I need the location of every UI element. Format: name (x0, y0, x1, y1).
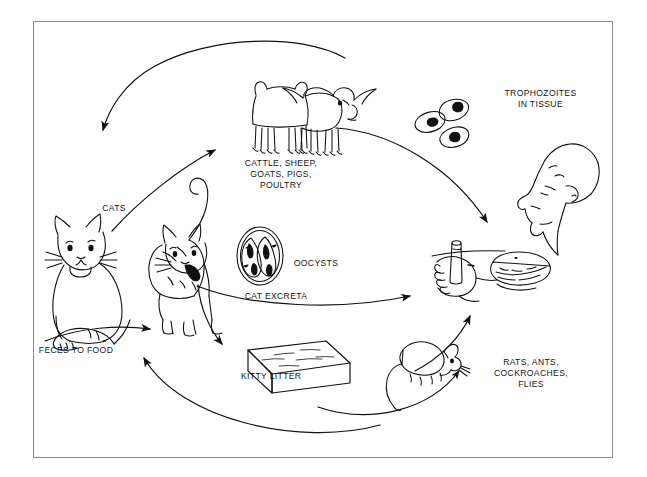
label-cat-excreta: CAT EXCRETA (228, 291, 324, 302)
diagram-canvas: CATTLE, SHEEP, GOATS, PIGS, POULTRY TROP… (0, 0, 647, 477)
trophozoites-illustration (415, 99, 469, 147)
arrow-cats-to-cattle (112, 150, 215, 231)
arrow-cat-to-litter (198, 285, 222, 344)
label-oocysts: OOCYSTS (281, 258, 351, 269)
label-cattle-sheep-goats-pigs-poultry: CATTLE, SHEEP, GOATS, PIGS, POULTRY (224, 158, 338, 192)
arrow-vermin-lower-inflow (318, 371, 459, 415)
label-feces-to-food: FECES TO FOOD (24, 345, 128, 356)
arrow-rodent-to-human (415, 316, 470, 371)
arrow-cattle-to-cats (103, 41, 345, 130)
label-kitty-litter: KITTY LITTER (241, 371, 333, 382)
standing-cat-illustration (149, 178, 222, 336)
hand-with-glass-illustration (435, 241, 497, 302)
arrow-litter-to-feces-food (144, 358, 380, 433)
kitty-litter-box-illustration (248, 341, 350, 393)
oocyst-illustration (237, 227, 283, 285)
label-cats: CATS (86, 203, 142, 214)
label-trophozoites-in-tissue: TROPHOZOITES IN TISSUE (478, 88, 603, 110)
label-rats-ants-cockroaches-flies: RATS, ANTS, COCKROACHES, FLIES (472, 357, 590, 391)
rodent-illustration (386, 342, 470, 411)
diagram-line-art (0, 0, 647, 477)
human-eating-illustration (518, 144, 599, 255)
cattle-illustration (253, 82, 376, 155)
arrow-cattle-to-human (336, 128, 487, 222)
